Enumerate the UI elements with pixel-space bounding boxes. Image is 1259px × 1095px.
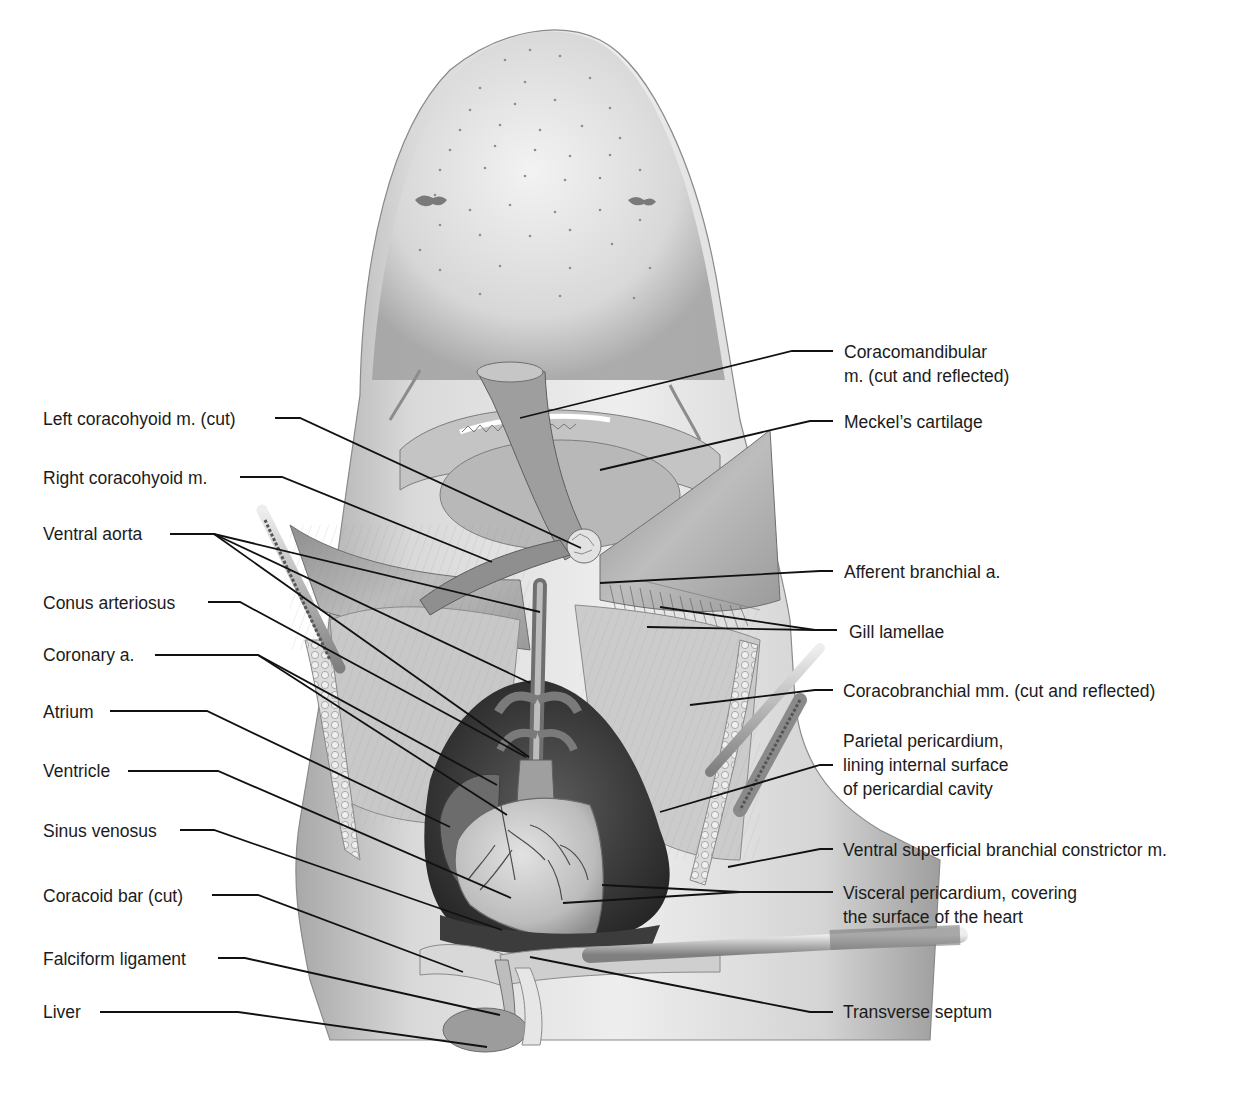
label-text: Falciform ligament [43, 947, 186, 971]
label-ventricle: Ventricle [43, 759, 110, 783]
label-coronary-a: Coronary a. [43, 643, 134, 667]
label-text: Atrium [43, 700, 94, 724]
label-text: Ventral superficial branchial constricto… [843, 838, 1167, 862]
label-parietal-pericardium: Parietal pericardium, lining internal su… [843, 729, 1008, 801]
label-text: Parietal pericardium, [843, 729, 1008, 753]
label-text: m. (cut and reflected) [844, 364, 1009, 388]
label-text: Coracomandibular [844, 340, 1009, 364]
label-text: Liver [43, 1000, 81, 1024]
label-text: Right coracohyoid m. [43, 466, 207, 490]
label-text: Conus arteriosus [43, 591, 175, 615]
liver-shape [443, 1008, 527, 1052]
label-gill-lamellae: Gill lamellae [849, 620, 944, 644]
label-text: lining internal surface [843, 753, 1008, 777]
label-meckels-cartilage: Meckel’s cartilage [844, 410, 983, 434]
coracohyoid-cut-end [567, 529, 601, 563]
label-text: Ventricle [43, 759, 110, 783]
label-text: of pericardial cavity [843, 777, 1008, 801]
label-text: Coracobranchial mm. (cut and reflected) [843, 679, 1155, 703]
label-coracobranchial: Coracobranchial mm. (cut and reflected) [843, 679, 1155, 703]
label-conus-arteriosus: Conus arteriosus [43, 591, 175, 615]
label-liver: Liver [43, 1000, 81, 1024]
label-text: Left coracohyoid m. (cut) [43, 407, 236, 431]
label-ventral-superficial: Ventral superficial branchial constricto… [843, 838, 1167, 862]
label-coracoid-bar: Coracoid bar (cut) [43, 884, 183, 908]
shark-dissection-illustration [0, 0, 1259, 1095]
label-text: Gill lamellae [849, 620, 944, 644]
label-text: Meckel’s cartilage [844, 410, 983, 434]
label-afferent-branchial: Afferent branchial a. [844, 560, 1000, 584]
label-falciform-ligament: Falciform ligament [43, 947, 186, 971]
coracomandibular-cut-end [477, 362, 543, 382]
label-ventral-aorta: Ventral aorta [43, 522, 142, 546]
label-text: Coronary a. [43, 643, 134, 667]
label-right-coracohyoid: Right coracohyoid m. [43, 466, 207, 490]
label-text: the surface of the heart [843, 905, 1077, 929]
label-text: Ventral aorta [43, 522, 142, 546]
label-text: Coracoid bar (cut) [43, 884, 183, 908]
label-text: Transverse septum [843, 1000, 992, 1024]
label-text: Visceral pericardium, covering [843, 881, 1077, 905]
label-sinus-venosus: Sinus venosus [43, 819, 157, 843]
label-atrium: Atrium [43, 700, 94, 724]
label-coracomandibular: Coracomandibular m. (cut and reflected) [844, 340, 1009, 388]
label-visceral-pericardium: Visceral pericardium, covering the surfa… [843, 881, 1077, 929]
label-left-coracohyoid: Left coracohyoid m. (cut) [43, 407, 236, 431]
label-text: Sinus venosus [43, 819, 157, 843]
label-transverse-septum: Transverse septum [843, 1000, 992, 1024]
label-text: Afferent branchial a. [844, 560, 1000, 584]
anatomy-figure: Left coracohyoid m. (cut) Right coracohy… [0, 0, 1259, 1095]
